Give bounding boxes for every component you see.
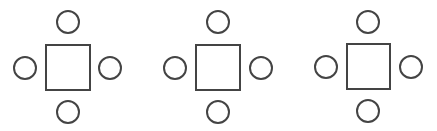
table-group-1 [14, 11, 121, 123]
table-seating-diagram [0, 0, 437, 131]
chair-circle-top [57, 11, 79, 33]
table-square [46, 45, 90, 90]
chair-circle-bottom [57, 101, 79, 123]
chair-circle-right [99, 57, 121, 79]
chair-circle-left [315, 56, 337, 78]
table-group-3 [315, 11, 422, 122]
table-square [347, 44, 390, 89]
chair-circle-bottom [207, 101, 229, 123]
chair-circle-bottom [357, 100, 379, 122]
table-group-2 [164, 11, 272, 123]
chair-circle-left [14, 57, 36, 79]
chair-circle-right [400, 56, 422, 78]
chair-circle-left [164, 57, 186, 79]
chair-circle-right [250, 57, 272, 79]
chair-circle-top [207, 11, 229, 33]
diagram-canvas [0, 0, 437, 131]
chair-circle-top [357, 11, 379, 33]
table-square [196, 45, 240, 90]
